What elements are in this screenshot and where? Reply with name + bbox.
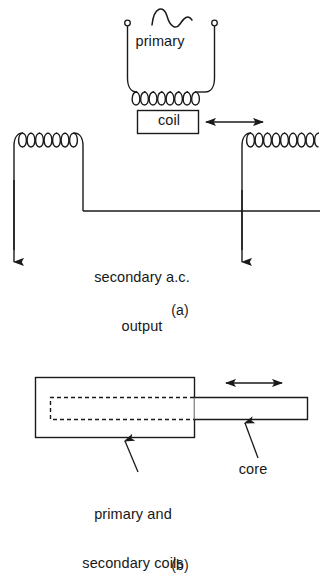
panel-b-graphics [36, 378, 308, 473]
secondary-coil-left [14, 133, 83, 250]
terminal-right-icon [212, 20, 218, 26]
terminal-left-icon [125, 20, 131, 26]
figure-root: primary coil secondary a.c. output (a) p… [0, 0, 320, 582]
primary-coil-label: primary [0, 33, 320, 49]
coil-box-label: coil [140, 112, 198, 128]
secondary-output-label-line1: secondary a.c. [42, 269, 242, 285]
secondary-coil-right [242, 133, 319, 250]
leader-line-coils [125, 441, 138, 472]
secondary-output-label-line2: output [42, 318, 242, 334]
coil-former-box [36, 378, 195, 438]
panel-a-caption: (a) [140, 303, 220, 319]
secondary-output-label: secondary a.c. output [42, 237, 242, 367]
core-label: core [218, 461, 288, 477]
primary-coil [132, 92, 205, 105]
primary-secondary-coils-label-line1: primary and [38, 506, 228, 522]
ac-source-sine-icon [152, 9, 192, 27]
leader-line-core [245, 423, 258, 458]
panel-b-caption: (b) [140, 558, 220, 574]
core-rod-outer [195, 398, 308, 420]
